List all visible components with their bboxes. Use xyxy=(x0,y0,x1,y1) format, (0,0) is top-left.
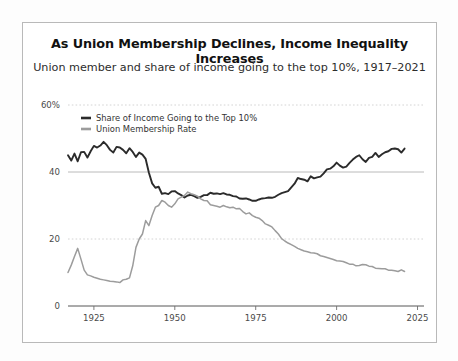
x-tick-1925: 1925 xyxy=(83,313,105,323)
y-tick-0: 0 xyxy=(55,301,60,311)
y-tick-40: 40 xyxy=(49,167,60,177)
series-line-union-rate xyxy=(68,192,405,282)
gridlines xyxy=(68,105,424,306)
chart-legend: Share of Income Going to the Top 10% Uni… xyxy=(81,113,257,134)
y-axis-tick-labels: 0204060% xyxy=(41,100,60,311)
legend-label-union-rate: Union Membership Rate xyxy=(96,124,197,134)
line-chart-plot: 0204060% 19251950197520002025 Share of I… xyxy=(0,0,458,361)
x-tick-1975: 1975 xyxy=(245,313,267,323)
y-tick-20: 20 xyxy=(49,234,60,244)
chart-figure: As Union Membership Declines, Income Ine… xyxy=(0,0,458,361)
series-line-income-share xyxy=(68,142,405,201)
x-axis xyxy=(68,306,424,310)
x-axis-tick-labels: 19251950197520002025 xyxy=(83,313,429,323)
data-series-group xyxy=(68,142,405,283)
legend-label-income-share: Share of Income Going to the Top 10% xyxy=(96,113,257,123)
x-tick-2000: 2000 xyxy=(326,313,348,323)
x-tick-2025: 2025 xyxy=(407,313,429,323)
y-tick-60: 60% xyxy=(41,100,60,110)
x-tick-1950: 1950 xyxy=(164,313,186,323)
